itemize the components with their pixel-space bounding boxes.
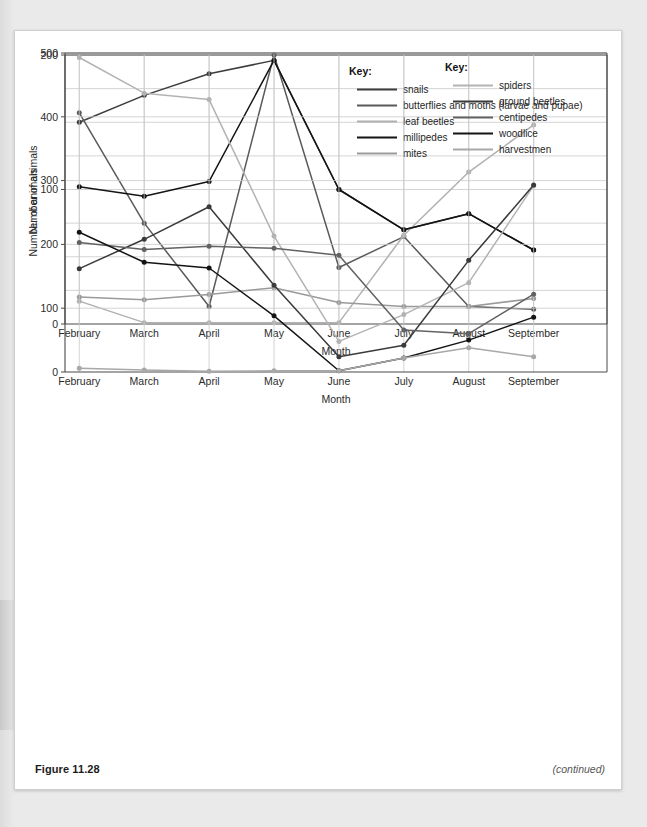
legend-label: centipedes xyxy=(499,112,547,123)
x-axis-title: Month xyxy=(321,393,350,405)
x-tick-label: March xyxy=(130,375,159,387)
data-point xyxy=(207,244,212,249)
data-point xyxy=(466,280,471,285)
data-point xyxy=(401,327,406,332)
x-tick-label: May xyxy=(264,375,285,387)
legend-label: harvestmen xyxy=(499,144,551,155)
x-tick-label: June xyxy=(328,375,351,387)
data-point xyxy=(336,368,341,373)
legend-label: spiders xyxy=(499,80,531,91)
data-point xyxy=(272,283,277,288)
data-point xyxy=(142,237,147,242)
x-tick-label: April xyxy=(199,375,220,387)
y-tick-label: 0 xyxy=(52,366,58,378)
legend-label: ground beetles xyxy=(499,96,565,107)
data-point xyxy=(142,91,147,96)
y-axis-title: Number of animals xyxy=(27,168,39,256)
x-tick-label: September xyxy=(508,375,560,387)
data-point xyxy=(401,312,406,317)
continued-note: (continued) xyxy=(552,763,605,775)
data-point xyxy=(142,260,147,265)
page-edge-shadow xyxy=(0,600,14,730)
data-point xyxy=(207,97,212,102)
series-line xyxy=(79,232,533,370)
y-tick-label: 300 xyxy=(40,174,58,186)
figure-caption-row: Figure 11.28 (continued) xyxy=(35,763,605,775)
x-tick-label: February xyxy=(58,375,101,387)
data-point xyxy=(531,315,536,320)
data-point xyxy=(401,343,406,348)
lower-chart-container: 0100200300400500Number of animalsFebruar… xyxy=(15,31,621,421)
data-point xyxy=(272,313,277,318)
data-point xyxy=(77,55,82,60)
y-tick-label: 100 xyxy=(40,302,58,314)
data-point xyxy=(466,258,471,263)
data-point xyxy=(531,183,536,188)
data-point xyxy=(207,204,212,209)
legend-label: woodlice xyxy=(498,128,538,139)
figure-card: 0100200Number of animalsFebruaryMarchApr… xyxy=(14,30,622,790)
data-point xyxy=(207,369,212,374)
data-point xyxy=(466,338,471,343)
series-line xyxy=(79,348,533,372)
data-point xyxy=(77,266,82,271)
x-tick-label: July xyxy=(394,375,413,387)
x-tick-label: August xyxy=(452,375,485,387)
series-line xyxy=(79,57,533,341)
data-point xyxy=(466,331,471,336)
series-line xyxy=(79,185,533,357)
y-tick-label: 400 xyxy=(40,111,58,123)
data-point xyxy=(531,354,536,359)
data-point xyxy=(336,339,341,344)
data-point xyxy=(142,368,147,373)
data-point xyxy=(336,253,341,258)
figure-number: Figure 11.28 xyxy=(35,763,100,775)
legend-title: Key: xyxy=(445,61,468,73)
y-tick-label: 500 xyxy=(40,47,58,59)
data-point xyxy=(531,292,536,297)
data-point xyxy=(142,247,147,252)
data-point xyxy=(272,368,277,373)
y-tick-label: 200 xyxy=(40,238,58,250)
data-point xyxy=(207,266,212,271)
data-point xyxy=(77,366,82,371)
data-point xyxy=(336,354,341,359)
data-point xyxy=(272,246,277,251)
data-point xyxy=(466,345,471,350)
data-point xyxy=(272,234,277,239)
lower-line-chart: 0100200300400500Number of animalsFebruar… xyxy=(15,31,621,421)
data-point xyxy=(77,230,82,235)
data-point xyxy=(401,355,406,360)
data-point xyxy=(77,240,82,245)
